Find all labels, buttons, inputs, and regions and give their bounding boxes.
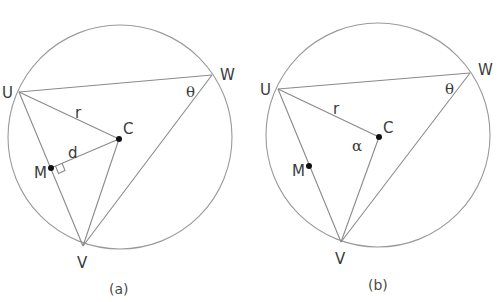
label-c: C [383,119,393,137]
segment-uw [278,73,470,89]
label-u: U [2,84,13,102]
point-m [306,163,312,169]
label-m: M [292,162,305,180]
segment-vc [83,139,119,246]
caption-a: (a) [109,281,129,297]
diagram-canvas: U W V C M r d θ (a) U W V C M r θ α (b) [0,0,503,302]
caption-b: (b) [368,277,388,293]
label-w: W [220,66,235,84]
label-r: r [75,104,82,122]
label-d: d [68,144,78,162]
figure-b: U W V C M r θ α (b) [260,23,493,293]
label-m: M [34,164,47,182]
point-m [48,165,54,171]
label-v: V [335,250,346,268]
segment-vw [341,73,470,242]
figure-a: U W V C M r d θ (a) [2,25,235,297]
point-c [116,136,122,142]
label-w: W [478,61,493,79]
segment-uc [19,92,119,139]
label-theta: θ [445,80,454,98]
segment-uw [19,75,212,92]
segment-mc [51,139,119,168]
label-u: U [260,81,271,99]
label-alpha: α [352,137,362,155]
label-theta: θ [186,83,195,101]
segment-uc [278,89,379,137]
label-r: r [333,100,340,118]
label-c: C [123,120,133,138]
point-c [376,134,382,140]
label-v: V [77,254,88,272]
